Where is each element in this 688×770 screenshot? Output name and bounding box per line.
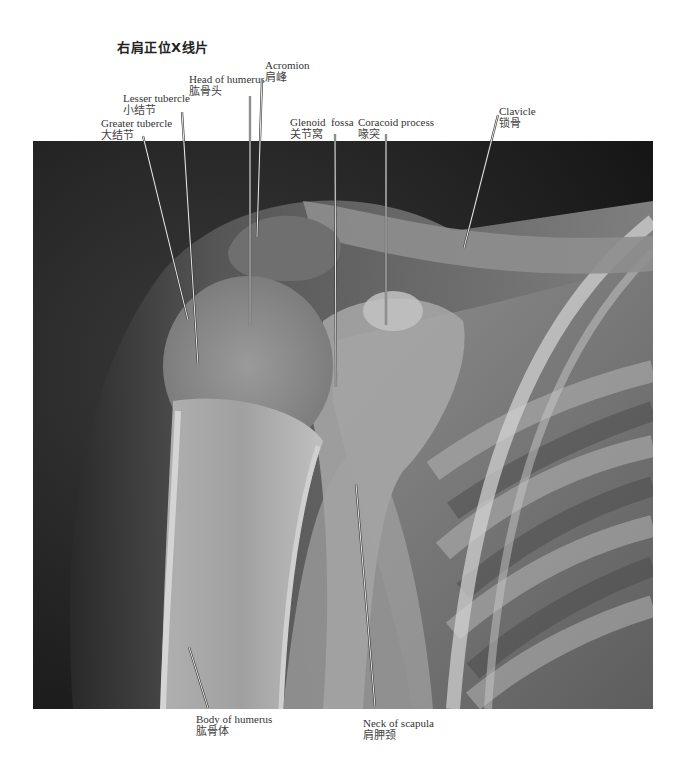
label-coracoid-process: Coracoid process 喙突 [358, 116, 434, 140]
label-en: Coracoid process [358, 116, 434, 128]
label-en: Clavicle [499, 105, 536, 117]
label-lesser-tubercle: Lesser tubercle 小结节 [123, 92, 190, 116]
label-glenoid-fossa: Glenoid fossa 关节窝 [290, 116, 354, 140]
label-en: Head of humerus [189, 73, 265, 85]
label-en: Greater tubercle [101, 117, 172, 129]
label-cn: 肱骨头 [189, 85, 265, 97]
label-en: Body of humerus [196, 713, 272, 725]
label-cn: 喙突 [358, 128, 434, 140]
label-cn: 大结节 [101, 129, 172, 141]
label-cn: 关节窝 [290, 128, 354, 140]
label-acromion: Acromion 肩峰 [265, 59, 310, 83]
label-body-of-humerus: Body of humerus 肱骨体 [196, 713, 272, 737]
label-greater-tubercle: Greater tubercle 大结节 [101, 117, 172, 141]
label-en: Glenoid fossa [290, 116, 354, 128]
label-neck-of-scapula: Neck of scapula 肩胛颈 [363, 717, 434, 741]
figure-title: 右肩正位X线片 [117, 37, 209, 56]
label-en: Lesser tubercle [123, 92, 190, 104]
label-en: Neck of scapula [363, 717, 434, 729]
label-cn: 肩胛颈 [363, 729, 434, 741]
label-cn: 肩峰 [265, 71, 310, 83]
label-cn: 肱骨体 [196, 725, 272, 737]
label-en: Acromion [265, 59, 310, 71]
shoulder-xray-image [33, 141, 653, 709]
label-clavicle: Clavicle 锁骨 [499, 105, 536, 129]
label-cn: 锁骨 [499, 117, 536, 129]
label-head-of-humerus: Head of humerus 肱骨头 [189, 73, 265, 97]
xray-graphic [33, 141, 653, 709]
label-cn: 小结节 [123, 104, 190, 116]
